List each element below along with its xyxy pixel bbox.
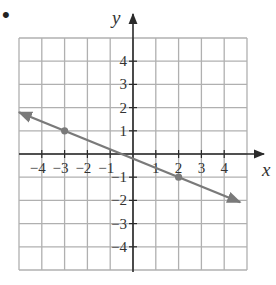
x-tick-label: 3 (198, 160, 206, 176)
y-tick-label: −1 (111, 169, 127, 185)
x-axis-label: x (261, 159, 271, 180)
x-tick-label: 4 (220, 160, 228, 176)
coordinate-plane: xy−4−3−2−112344321−1−2−3−4 (0, 0, 276, 285)
x-tick-label: −4 (30, 160, 46, 176)
y-tick-label: −3 (111, 216, 127, 232)
y-tick-label: −4 (111, 239, 127, 255)
x-tick-label: −3 (53, 160, 69, 176)
data-point (175, 174, 182, 181)
x-tick-label: −2 (75, 160, 91, 176)
y-axis-label: y (110, 7, 121, 28)
data-point (61, 127, 68, 134)
y-tick-label: −2 (111, 192, 127, 208)
y-tick-label: 3 (120, 76, 128, 92)
y-tick-label: 4 (120, 53, 128, 69)
y-tick-label: 1 (120, 123, 128, 139)
y-tick-label: 2 (120, 100, 128, 116)
graphed-line (19, 112, 240, 202)
